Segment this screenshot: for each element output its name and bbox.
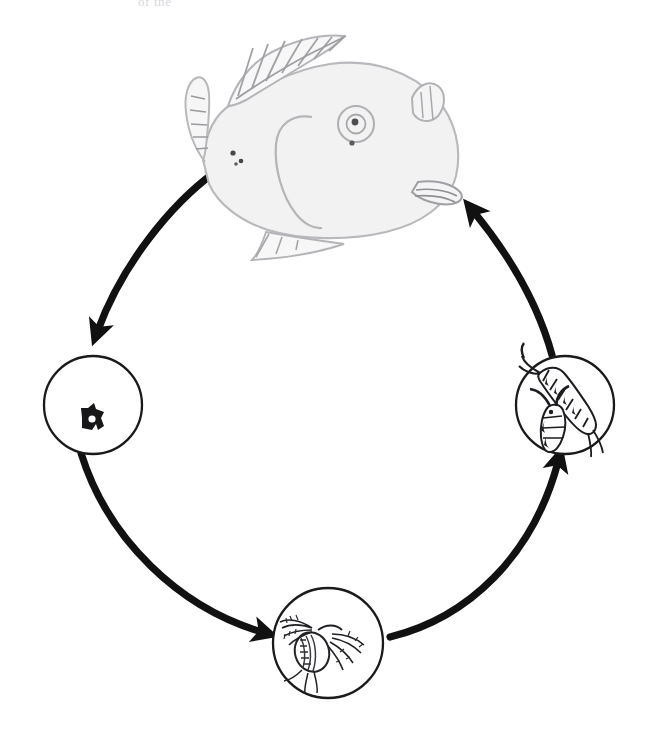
copepod-lower-eye — [549, 410, 553, 414]
fish-eye-pupil — [352, 119, 359, 126]
arrow-fish-to-egg — [98, 172, 215, 330]
node-copepodite[interactable] — [516, 343, 614, 457]
arrow-egg-to-nauplius — [81, 453, 262, 632]
fish-nostril-dot-3 — [234, 162, 238, 166]
fish-head-fin — [412, 83, 444, 121]
diagram-canvas: of the — [0, 0, 663, 752]
copepod-upper-antenna-tip — [522, 343, 524, 358]
arrow-nauplius-to-copepodite — [390, 462, 558, 637]
node-nauplius[interactable] — [273, 588, 383, 698]
life-cycle-svg — [0, 0, 663, 752]
fish-eye-dot — [349, 140, 354, 145]
fish-nostril-dot-1 — [230, 150, 235, 155]
node-egg[interactable] — [44, 356, 142, 454]
egg-center — [88, 415, 95, 422]
nauplius-circle-outline[interactable] — [273, 588, 383, 698]
arrow-copepodite-to-fish — [474, 212, 552, 355]
fish-nostril-dot-2 — [239, 159, 244, 164]
fish-icon — [185, 36, 461, 260]
